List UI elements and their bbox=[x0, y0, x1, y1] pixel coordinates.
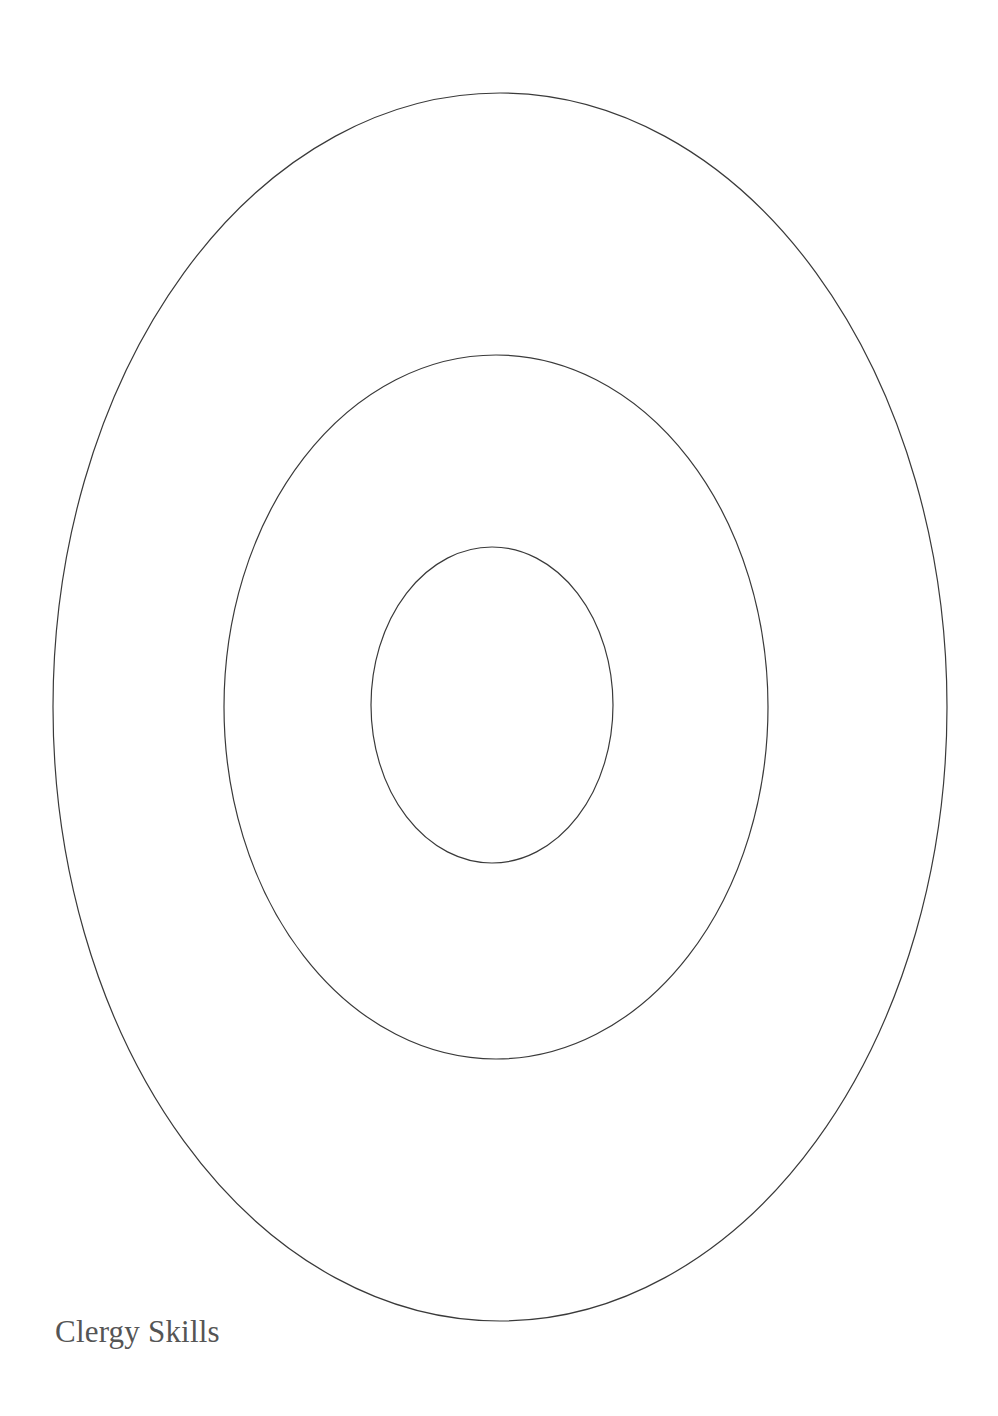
middle-ellipse bbox=[224, 355, 768, 1059]
outer-ellipse bbox=[53, 93, 947, 1321]
inner-ellipse bbox=[371, 547, 613, 863]
caption-label: Clergy Skills bbox=[55, 1314, 220, 1350]
concentric-ellipses-diagram bbox=[0, 0, 998, 1416]
